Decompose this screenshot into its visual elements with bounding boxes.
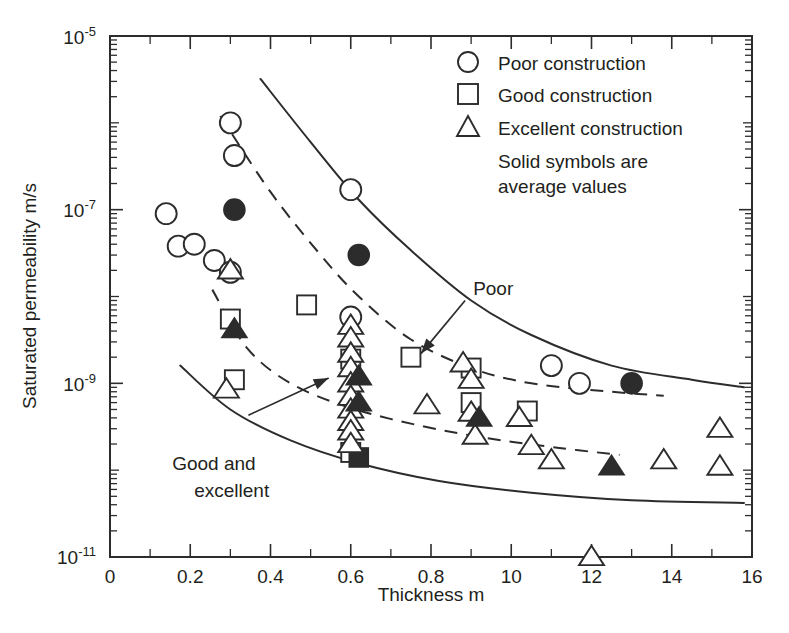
legend-item-poor: Poor construction — [458, 52, 646, 74]
marker-triangle-open-21 — [651, 449, 676, 468]
y-axis-tick-labels: 10-5 10-7 10-9 10-11 — [57, 24, 96, 568]
marker-circle-open-2 — [184, 234, 205, 255]
y-tick-label-3: 10-9 — [63, 371, 96, 395]
x-tick-label-7: 14 — [661, 566, 683, 587]
annotation-label-good-excellent-line-2: excellent — [194, 480, 270, 501]
x-tick-label-2: 0.4 — [257, 566, 284, 587]
square-icon — [458, 84, 478, 104]
marker-circle-open-7 — [340, 179, 361, 200]
x-tick-label-3: 0.6 — [338, 566, 364, 587]
marker-circle-open-9 — [541, 355, 562, 376]
marker-circle-solid-0 — [224, 199, 245, 220]
marker-circle-open-6 — [224, 145, 245, 166]
y-tick-label-2: 10-7 — [63, 197, 96, 221]
chart-legend: Poor construction Good construction Exce… — [457, 52, 683, 197]
legend-note-line-2: average values — [498, 176, 627, 197]
x-tick-label-6: 12 — [581, 566, 602, 587]
marker-triangle-open-18 — [519, 435, 544, 454]
marker-triangle-open-20 — [579, 546, 604, 565]
permeability-scatter-chart: 10-5 10-7 10-9 10-11 00.20.40.60.8101214… — [0, 0, 789, 633]
marker-square-open-2 — [297, 295, 316, 314]
x-tick-label-0: 0 — [105, 566, 116, 587]
legend-label-good: Good construction — [498, 85, 652, 106]
marker-circle-open-0 — [156, 203, 177, 224]
annotation-label-good-excellent-line-1: Good and — [172, 453, 255, 474]
x-axis-title: Thickness m — [378, 584, 485, 605]
y-axis-title: Saturated permeability m/s — [19, 183, 40, 409]
legend-label-poor: Poor construction — [498, 53, 646, 74]
legend-note-line-1: Solid symbols are — [498, 151, 648, 172]
marker-triangle-open-16 — [414, 394, 439, 413]
x-tick-label-8: 16 — [741, 566, 762, 587]
annotation-label-poor: Poor — [473, 278, 514, 299]
triangle-icon — [457, 116, 479, 136]
legend-item-excellent: Excellent construction — [457, 116, 683, 139]
chart-figure: 10-5 10-7 10-9 10-11 00.20.40.60.8101214… — [0, 0, 789, 633]
y-tick-label-1: 10-5 — [63, 24, 96, 48]
marker-square-open-5 — [401, 348, 420, 367]
marker-circle-open-10 — [569, 373, 590, 394]
x-tick-label-1: 0.2 — [177, 566, 203, 587]
annotation-arrow-good-excellent-head — [313, 378, 329, 389]
marker-triangle-open-23 — [707, 455, 732, 474]
marker-triangle-open-22 — [707, 417, 732, 436]
marker-circle-solid-1 — [348, 245, 369, 266]
circle-icon — [458, 52, 478, 72]
legend-item-good: Good construction — [458, 84, 652, 106]
legend-label-excellent: Excellent construction — [498, 118, 683, 139]
y-tick-label-4: 10-11 — [57, 544, 96, 568]
marker-circle-open-5 — [220, 112, 241, 133]
x-tick-label-5: 10 — [501, 566, 522, 587]
marker-circle-solid-2 — [621, 373, 642, 394]
trend-curves — [180, 79, 744, 503]
marker-triangle-solid-4 — [599, 455, 624, 474]
